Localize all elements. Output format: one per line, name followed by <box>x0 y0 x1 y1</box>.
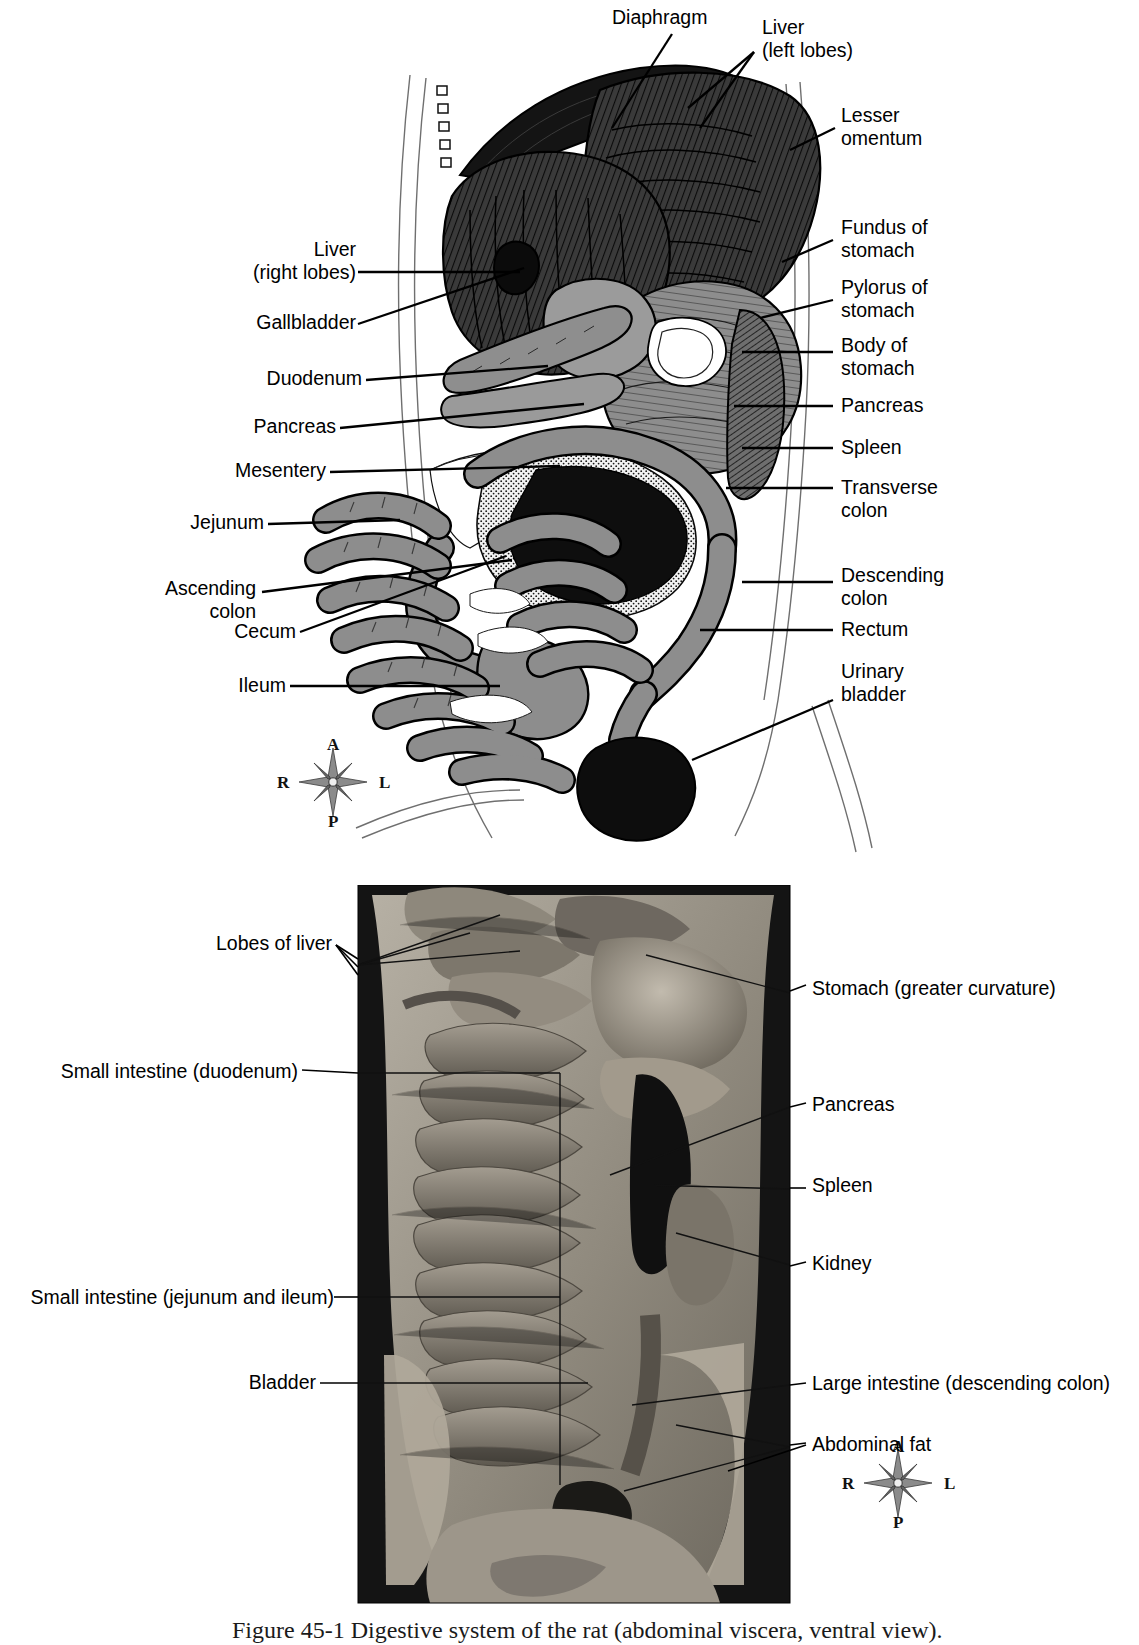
label-pancreas-right: Pancreas <box>841 394 923 417</box>
photo-plate <box>358 885 790 1603</box>
figure-caption-text: Digestive system of the rat (abdominal v… <box>351 1617 943 1643</box>
label-lobes-of-liver: Lobes of liver <box>36 932 332 955</box>
label-descending-colon-a: Descending colon <box>841 564 944 610</box>
label-abdominal-fat: Abdominal fat <box>812 1433 931 1456</box>
label-body-of-stomach: Body of stomach <box>841 334 915 380</box>
figure-caption: Figure 45-1 Digestive system of the rat … <box>232 1617 942 1644</box>
compass-b-label-left: L <box>944 1474 955 1494</box>
label-diaphragm: Diaphragm <box>612 6 707 29</box>
compass-a-label-left: L <box>379 773 390 793</box>
label-spleen-a: Spleen <box>841 436 902 459</box>
compass-rose-panel-a <box>299 748 367 816</box>
label-liver-right-lobes: Liver (right lobes) <box>118 238 356 284</box>
label-kidney: Kidney <box>812 1252 872 1275</box>
label-gallbladder: Gallbladder <box>118 311 356 334</box>
figure-45-1: A L R P Diaphragm Liver (left lobes) Liv… <box>0 0 1139 1645</box>
organ-spleen <box>727 310 784 499</box>
label-liver-left-lobes: Liver (left lobes) <box>762 16 853 62</box>
label-mesentery: Mesentery <box>88 459 326 482</box>
label-transverse-colon: Transverse colon <box>841 476 938 522</box>
label-cecum: Cecum <box>58 620 296 643</box>
label-bladder: Bladder <box>36 1371 316 1394</box>
label-jejunum: Jejunum <box>28 511 264 534</box>
label-stomach-greater-curvature: Stomach (greater curvature) <box>812 977 1056 1000</box>
label-pancreas-left: Pancreas <box>98 415 336 438</box>
label-pancreas-b: Pancreas <box>812 1093 894 1116</box>
organ-gallbladder <box>494 242 539 295</box>
label-ileum: Ileum <box>48 674 286 697</box>
compass-rose-panel-b <box>864 1449 932 1517</box>
organ-pylorus-inner <box>658 328 713 378</box>
label-duodenum: Duodenum <box>118 367 362 390</box>
label-ascending-colon: Ascending colon <box>18 577 256 623</box>
label-small-intestine-jejunum-ileum: Small intestine (jejunum and ileum) <box>8 1286 334 1309</box>
label-pylorus-of-stomach: Pylorus of stomach <box>841 276 928 322</box>
compass-a-label-right: R <box>277 773 289 793</box>
label-large-intestine-descending-colon: Large intestine (descending colon) <box>812 1372 1110 1395</box>
figure-caption-number: Figure 45-1 <box>232 1617 345 1643</box>
compass-a-label-anterior: A <box>327 735 339 755</box>
compass-b-label-right: R <box>842 1474 854 1494</box>
label-spleen-b: Spleen <box>812 1174 873 1197</box>
label-urinary-bladder: Urinary bladder <box>841 660 906 706</box>
label-fundus-of-stomach: Fundus of stomach <box>841 216 928 262</box>
compass-a-label-posterior: P <box>328 812 338 832</box>
label-small-intestine-duodenum: Small intestine (duodenum) <box>36 1060 298 1083</box>
compass-b-label-posterior: P <box>893 1513 903 1533</box>
label-lesser-omentum: Lesser omentum <box>841 104 922 150</box>
label-rectum: Rectum <box>841 618 908 641</box>
organ-urinary-bladder <box>577 738 695 841</box>
